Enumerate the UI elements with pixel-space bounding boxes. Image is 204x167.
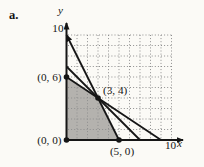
vertex-dot [64, 137, 70, 143]
point-label: (0, 0) [37, 134, 62, 147]
vertex-dot [95, 95, 101, 101]
vertex-dot [116, 137, 122, 143]
lp-graph-canvas: (0, 6)(3, 4)(0, 0)(5, 0)1010xy [0, 0, 204, 167]
y-axis-label: y [57, 4, 63, 16]
point-label: (5, 0) [110, 145, 135, 158]
x-axis-label: x [176, 137, 182, 149]
figure-page: a. (0, 6)(3, 4)(0, 0)(5, 0)1010xy [0, 0, 204, 167]
y-axis-tick-label: 10 [52, 22, 64, 34]
point-label: (3, 4) [103, 84, 128, 97]
point-label: (0, 6) [37, 71, 62, 84]
x-axis-tick-label: 10 [165, 139, 177, 151]
vertex-dot [64, 74, 70, 80]
